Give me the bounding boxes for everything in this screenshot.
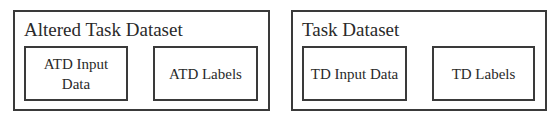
td-input-data-label: TD Input Data [311,64,398,84]
td-labels-box: TD Labels [432,46,535,101]
atd-labels-box: ATD Labels [153,46,258,101]
task-dataset-title: Task Dataset [302,20,399,40]
td-labels-label: TD Labels [452,64,516,84]
td-input-data-box: TD Input Data [302,46,407,101]
altered-task-dataset-title: Altered Task Dataset [24,20,183,40]
atd-input-data-label-line1: ATD Input [44,54,109,74]
atd-input-data-box: ATD Input Data [24,46,128,101]
atd-input-data-label-line2: Data [44,74,109,94]
atd-labels-label: ATD Labels [169,64,242,84]
